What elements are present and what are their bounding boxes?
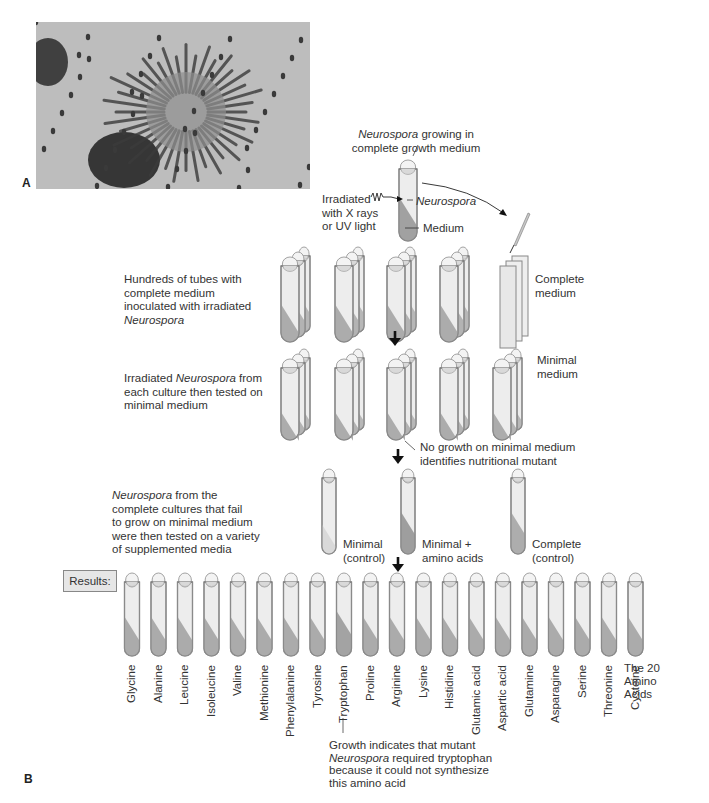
minimal-plus-amino-acids-tube (401, 469, 415, 554)
top-culture-tube (399, 160, 417, 241)
complete-control-line1: Complete (532, 538, 581, 550)
amino-acid-label: Glutamine (523, 665, 535, 717)
amino-acid-label: Leucine (178, 665, 190, 705)
no-growth-leader-line (405, 441, 415, 450)
step3-line3: to grow on minimal medium (112, 516, 253, 528)
irradiation-label: Irradiated with X rays or UV light (322, 193, 378, 234)
minimal-control-label: Minimal (control) (343, 538, 385, 565)
test-tube-front (493, 359, 511, 441)
amino-acid-label: Isoleucine (205, 665, 217, 717)
group-label-line3: Acids (624, 688, 652, 700)
result-tube-arginine (390, 573, 405, 656)
note-line3: because it could not synthesize (329, 764, 489, 776)
test-tube-front (281, 359, 299, 441)
amino-acid-label: Aspartic acid (496, 665, 508, 731)
no-growth-note: No growth on minimal medium identifies n… (420, 441, 575, 468)
note-line2-rest: required tryptophan (389, 752, 492, 764)
irradiation-line3: or UV light (322, 220, 376, 232)
step3-description: Neurospora from the complete cultures th… (112, 489, 260, 557)
result-tube-valine (231, 573, 246, 656)
test-tube-front (335, 359, 353, 441)
result-tube-glycine (125, 573, 140, 656)
step1-line3: inoculated with irradiated (124, 300, 251, 312)
amino-acid-label: Tryptophan (337, 665, 349, 723)
tryptophan-growth-note: Growth indicates that mutant Neurospora … (329, 739, 492, 789)
step1-line4: Neurospora (124, 314, 184, 326)
amino-acid-label: Arginine (390, 665, 402, 707)
step3-line2: complete cultures that fail (112, 503, 242, 515)
medium-label: Medium (423, 222, 464, 236)
amino-acid-label: Valine (231, 665, 243, 696)
note-line2-italic: Neurospora (329, 752, 389, 764)
step3-line1-post: from the (172, 489, 217, 501)
step2-line1-pre: Irradiated (124, 372, 176, 384)
minimal-plus-aa-line1: Minimal + (422, 538, 472, 550)
result-tube-tryptophan (337, 573, 352, 656)
test-tube-front (281, 257, 299, 342)
amino-acid-label: Glycine (125, 665, 137, 703)
twenty-amino-acids-label: The 20 Amino Acids (624, 662, 660, 701)
step2-description: Irradiated Neurospora from each culture … (124, 372, 263, 413)
step3-line5: of supplemented media (112, 543, 232, 555)
result-tube-lysine (416, 573, 431, 656)
complete-medium-label: Complete medium (535, 273, 584, 300)
amino-acid-label: Methionine (258, 665, 270, 721)
irradiation-line1: Irradiated (322, 193, 371, 205)
down-arrow-icon (392, 449, 404, 464)
minimal-control-line2: (control) (343, 552, 385, 564)
result-tube-phenylalanine (284, 573, 299, 656)
amino-acid-label: Lysine (417, 665, 429, 698)
complete-medium-line1: Complete (535, 273, 584, 285)
amino-acid-label: Alanine (152, 665, 164, 703)
result-tube-methionine (257, 573, 272, 656)
complete-control-tube (511, 469, 525, 554)
minimal-control-line1: Minimal (343, 538, 383, 550)
step3-line1-italic: Neurospora (112, 489, 172, 501)
complete-medium-stack (500, 256, 528, 348)
caption-italic: Neurospora (358, 128, 418, 140)
result-tube-serine (575, 573, 590, 656)
amino-acid-label: Proline (364, 665, 376, 701)
step1-description: Hundreds of tubes with complete medium i… (124, 273, 251, 327)
panel-label-b: B (24, 772, 33, 786)
amino-acid-label: Serine (576, 665, 588, 698)
results-label-box: Results: (63, 570, 117, 592)
test-tube-front (387, 257, 405, 342)
amino-acid-label: Asparagine (549, 665, 561, 723)
group-label-line2: Amino (624, 675, 657, 687)
inoculating-needle-icon (510, 213, 530, 253)
neurospora-label-text: Neurospora (416, 195, 476, 207)
step3-line4: were then tested on a variety (112, 530, 260, 542)
caption-rest: growing in (418, 128, 474, 140)
result-tube-alanine (151, 573, 166, 656)
result-tube-isoleucine (204, 573, 219, 656)
result-tube-leucine (178, 573, 193, 656)
minimal-plus-aa-label: Minimal + amino acids (422, 538, 483, 565)
result-tube-asparagine (549, 573, 564, 656)
amino-acid-label: Phenylalanine (284, 665, 296, 737)
note-line4: this amino acid (329, 777, 406, 789)
result-tube-threonine (602, 573, 617, 656)
irradiation-line2: with X rays (322, 207, 378, 219)
result-tube-glutamic-acid (469, 573, 484, 656)
result-tube-tyrosine (310, 573, 325, 656)
amino-acid-label: Tyrosine (311, 665, 323, 708)
step2-line1-italic: Neurospora (176, 372, 236, 384)
result-tube-glutamine (522, 573, 537, 656)
result-tube-histidine (443, 573, 458, 656)
complete-control-label: Complete (control) (532, 538, 581, 565)
result-tube-aspartic-acid (496, 573, 511, 656)
neurospora-label: Neurospora (416, 195, 476, 209)
caption-line2: complete growth medium (352, 142, 480, 154)
minimal-plus-aa-line2: amino acids (422, 552, 483, 564)
test-tube-front (440, 359, 458, 441)
amino-acid-label: Glutamic acid (470, 665, 482, 735)
step2-line2: each culture then tested on (124, 386, 263, 398)
minimal-medium-line1: Minimal (537, 354, 577, 366)
test-tube-front (335, 257, 353, 342)
note-line1: Growth indicates that mutant (329, 739, 475, 751)
complete-medium-line2: medium (535, 287, 576, 299)
step1-line1: Hundreds of tubes with (124, 273, 242, 285)
top-tube-caption: Neurospora growing in complete growth me… (351, 128, 481, 155)
test-tube-front (387, 359, 405, 441)
